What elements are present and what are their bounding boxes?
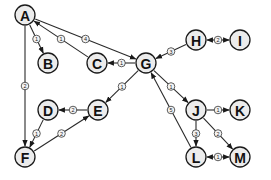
edge-weight-label: 1 (120, 60, 123, 66)
edge-weight-label: 2 (23, 83, 26, 89)
node-g: G (136, 53, 156, 73)
edge-weight-label: 1 (59, 36, 62, 42)
edge-weight-badge: 1 (118, 83, 126, 91)
edge-weight-label: 3 (194, 131, 197, 137)
node-label: B (43, 56, 53, 72)
node-d: D (38, 100, 58, 120)
graph-diagram: 11421321212151321 ABCGHIDEFJKLM (0, 0, 271, 180)
node-label: K (235, 103, 245, 119)
node-h: H (186, 30, 206, 50)
edge-weight-badge: 5 (167, 106, 175, 114)
edge-weight-badge: 1 (57, 35, 65, 43)
edge-weight-label: 2 (216, 131, 219, 137)
edge-weight-label: 2 (60, 131, 63, 137)
edge-weight-label: 1 (35, 36, 38, 42)
edge-weight-label: 2 (71, 107, 74, 113)
node-label: J (192, 103, 200, 119)
node-label: H (191, 33, 201, 49)
node-label: G (141, 56, 152, 72)
edge-weight-badge: 1 (167, 83, 175, 91)
edge-weight-badge: 3 (167, 48, 175, 56)
edge-weight-badge: 1 (33, 130, 41, 138)
node-label: F (21, 150, 30, 166)
edge-weight-badge: 2 (214, 36, 222, 44)
node-label: E (93, 103, 102, 119)
edge-weight-label: 1 (216, 107, 219, 113)
edge-weight-badge: 1 (118, 59, 126, 67)
edge-weight-label: 3 (169, 49, 172, 55)
edge-weight-label: 1 (35, 131, 38, 137)
node-i: I (230, 30, 250, 50)
edge-weight-badge: 2 (69, 106, 77, 114)
node-label: A (20, 8, 30, 24)
edge-weight-badge: 1 (214, 106, 222, 114)
edge-weight-label: 5 (169, 107, 172, 113)
edge-weight-label: 4 (84, 36, 87, 42)
node-l: L (186, 147, 206, 167)
node-j: J (186, 100, 206, 120)
node-c: C (87, 53, 107, 73)
node-label: D (43, 103, 53, 119)
node-f: F (15, 147, 35, 167)
node-e: E (88, 100, 108, 120)
edge-weight-badge: 4 (82, 35, 90, 43)
edge-weight-badge: 2 (214, 130, 222, 138)
edge-weight-label: 2 (216, 37, 219, 43)
node-label: M (234, 150, 246, 166)
edge-weight-label: 1 (120, 84, 123, 90)
node-m: M (230, 147, 250, 167)
node-a: A (15, 5, 35, 25)
edge-weight-badge: 2 (21, 82, 29, 90)
node-k: K (230, 100, 250, 120)
nodes-layer: ABCGHIDEFJKLM (15, 5, 250, 167)
node-label: C (92, 56, 102, 72)
edge-weight-label: 1 (216, 154, 219, 160)
edge-weight-badge: 1 (33, 35, 41, 43)
node-b: B (38, 53, 58, 73)
edge-weight-badge: 2 (58, 130, 66, 138)
edge-weight-badge: 3 (192, 130, 200, 138)
edge-weight-badge: 1 (214, 153, 222, 161)
edge-weight-label: 1 (169, 84, 172, 90)
node-label: L (192, 150, 201, 166)
node-label: I (238, 33, 242, 49)
